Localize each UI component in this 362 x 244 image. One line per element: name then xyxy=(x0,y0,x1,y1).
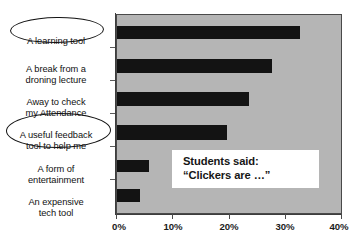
x-axis-label-1: 10% xyxy=(163,221,182,232)
x-axis-label-0: 0% xyxy=(112,221,126,232)
category-label-5: An expensive tech tool xyxy=(0,197,112,220)
category-label-3-line-0: A useful feedback xyxy=(0,130,112,141)
category-label-2: Away to check my Attendance xyxy=(0,97,112,120)
bar-4 xyxy=(117,160,149,172)
category-label-3: A useful feedback tool to help me xyxy=(0,130,112,153)
category-label-4: A form of entertainment xyxy=(0,164,112,187)
x-axis-label-3: 30% xyxy=(275,221,294,232)
y-axis-line xyxy=(115,13,116,215)
category-label-1: A break from a droning lecture xyxy=(0,64,112,87)
annotation-line-2: “Clickers are …” xyxy=(183,168,319,182)
category-label-4-line-1: entertainment xyxy=(0,175,112,186)
category-label-0: A learning tool xyxy=(0,36,112,47)
y-axis-tick-3 xyxy=(110,146,115,147)
category-label-0-line-0: A learning tool xyxy=(0,36,112,47)
y-axis-tick-2 xyxy=(110,113,115,114)
x-axis-tick-4 xyxy=(341,214,342,219)
x-axis-label-2: 20% xyxy=(219,221,238,232)
bar-5 xyxy=(117,189,140,202)
category-label-2-line-0: Away to check xyxy=(0,97,112,108)
category-label-column: A learning tool A break from a droning l… xyxy=(0,14,112,214)
category-label-1-line-0: A break from a xyxy=(0,64,112,75)
y-axis-tick-0 xyxy=(110,47,115,48)
annotation-line-1: Students said: xyxy=(183,154,319,168)
category-label-5-line-0: An expensive xyxy=(0,197,112,208)
x-axis-tick-3 xyxy=(285,214,286,219)
bar-2 xyxy=(117,92,249,106)
x-axis-tick-1 xyxy=(172,214,173,219)
x-axis-label-4: 40% xyxy=(329,221,348,232)
category-label-1-line-1: droning lecture xyxy=(0,75,112,86)
category-label-2-line-1: my Attendance xyxy=(0,108,112,119)
bar-0 xyxy=(117,26,300,39)
x-axis-tick-2 xyxy=(229,214,230,219)
category-label-4-line-0: A form of xyxy=(0,164,112,175)
annotation-callout: Students said: “Clickers are …” xyxy=(172,150,319,188)
category-label-5-line-1: tech tool xyxy=(0,208,112,219)
bar-3 xyxy=(117,125,227,140)
category-label-3-line-1: tool to help me xyxy=(0,141,112,152)
y-axis-tick-1 xyxy=(110,80,115,81)
bar-chart-figure: A learning tool A break from a droning l… xyxy=(0,0,362,244)
bar-1 xyxy=(117,59,272,73)
x-axis-tick-0 xyxy=(116,214,117,219)
y-axis-tick-4 xyxy=(110,179,115,180)
